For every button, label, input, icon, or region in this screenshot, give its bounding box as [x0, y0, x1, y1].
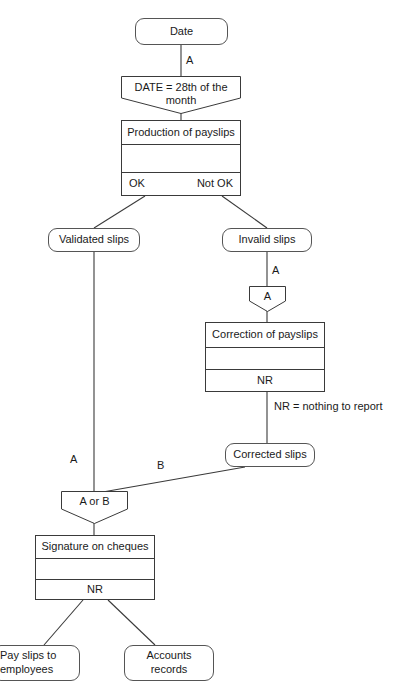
process-signature-title: Signature on cheques: [41, 540, 148, 554]
process-correction-bottom-row: NR: [206, 369, 324, 391]
decision-date-condition[interactable]: DATE = 28th of the month: [121, 76, 241, 114]
terminator-corrected-slips[interactable]: Corrected slips: [225, 443, 315, 467]
process-production-outcome-not-ok: Not OK: [197, 177, 233, 191]
terminator-validated-slips-label: Validated slips: [59, 233, 129, 247]
terminator-pay-slips-to-employees[interactable]: Pay slips to employees: [0, 645, 80, 681]
process-correction-title-row: Correction of payslips: [206, 323, 324, 347]
process-signature-middle-row: [36, 558, 154, 579]
connector-a[interactable]: A: [249, 286, 286, 312]
note-nr-legend: NR = nothing to report: [274, 400, 383, 412]
connector-a-or-b-label: A or B: [61, 495, 128, 507]
process-correction-of-payslips[interactable]: Correction of payslips NR: [205, 322, 325, 392]
terminator-accounts-records[interactable]: Accounts records: [124, 645, 214, 681]
edge-label-invalid-to-connector: A: [272, 264, 279, 276]
decision-date-condition-line2: month: [121, 94, 241, 106]
connector-a-or-b[interactable]: A or B: [61, 491, 128, 524]
terminator-pay-slips-line1: Pay slips to: [0, 649, 56, 663]
process-production-title: Production of payslips: [127, 126, 235, 140]
flowchart-canvas: Date A DATE = 28th of the month Producti…: [0, 0, 402, 695]
edge-ok-to-validated: [94, 196, 145, 228]
edge-label-corrected-to-aorb: B: [157, 459, 164, 471]
terminator-accounts-records-line1: Accounts: [146, 649, 191, 663]
terminator-corrected-slips-label: Corrected slips: [233, 448, 306, 462]
edge-notok-to-invalid: [222, 196, 267, 228]
edge-signature-to-payslips: [44, 600, 83, 645]
process-correction-title: Correction of payslips: [212, 328, 318, 342]
decision-date-condition-line1: DATE = 28th of the: [121, 81, 241, 93]
edge-signature-to-accounts: [108, 600, 155, 645]
process-correction-bottom: NR: [257, 374, 273, 388]
process-signature-bottom: NR: [87, 583, 103, 597]
process-production-of-payslips[interactable]: Production of payslips OK Not OK: [121, 120, 241, 196]
terminator-accounts-records-line2: records: [151, 663, 188, 677]
terminator-pay-slips-line2: employees: [0, 663, 53, 677]
terminator-invalid-slips-label: Invalid slips: [239, 233, 296, 247]
connector-a-label: A: [249, 290, 286, 302]
edge-label-date-to-condition: A: [186, 54, 193, 66]
process-production-title-row: Production of payslips: [122, 121, 240, 144]
process-production-outcome-ok: OK: [129, 177, 145, 191]
terminator-invalid-slips[interactable]: Invalid slips: [222, 228, 312, 252]
terminator-date-label: Date: [170, 25, 193, 39]
process-correction-middle-row: [206, 347, 324, 369]
process-signature-title-row: Signature on cheques: [36, 536, 154, 558]
process-production-middle-row: [122, 144, 240, 171]
process-production-outcome-row: OK Not OK: [122, 172, 240, 195]
terminator-validated-slips[interactable]: Validated slips: [48, 228, 140, 252]
edge-label-validated-to-aorb: A: [70, 453, 77, 465]
process-signature-on-cheques[interactable]: Signature on cheques NR: [35, 535, 155, 600]
process-signature-bottom-row: NR: [36, 579, 154, 599]
terminator-date[interactable]: Date: [135, 18, 228, 45]
edge-corrected-to-aorb: [97, 467, 245, 493]
